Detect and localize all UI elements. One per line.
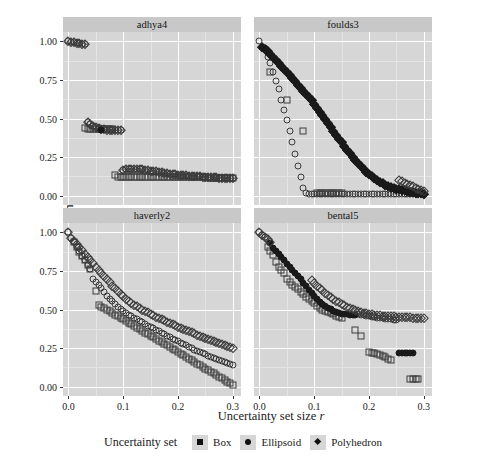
gridline-minor-h bbox=[63, 61, 241, 62]
legend-label-box: Box bbox=[213, 436, 231, 448]
legend: Uncertainty set Box Ellipsoid Polyhedron bbox=[0, 430, 486, 454]
x-tick-label: 0.3 bbox=[407, 401, 441, 412]
gridline-major-h bbox=[254, 387, 432, 388]
gridline-minor-h bbox=[254, 367, 432, 368]
gridline-major-v bbox=[259, 32, 260, 205]
gridline-major-h bbox=[63, 387, 241, 388]
x-tick-mark bbox=[123, 396, 124, 399]
x-tick-label: 0.2 bbox=[161, 401, 195, 412]
gridline-major-h bbox=[254, 157, 432, 158]
legend-item-ellipsoid[interactable]: Ellipsoid bbox=[240, 435, 301, 450]
x-tick-mark bbox=[233, 396, 234, 399]
y-tick-mark bbox=[60, 119, 63, 120]
data-point-circle bbox=[229, 362, 236, 369]
y-tick-mark bbox=[60, 41, 63, 42]
gridline-major-v bbox=[259, 223, 260, 396]
data-point-circle bbox=[270, 69, 277, 76]
data-point-square bbox=[387, 356, 394, 363]
data-point-circle bbox=[292, 151, 299, 158]
facet-bental5: bental5 bbox=[254, 208, 432, 396]
gridline-major-h bbox=[63, 80, 241, 81]
legend-label-ellipsoid: Ellipsoid bbox=[261, 436, 301, 448]
y-tick-label: 0.00 bbox=[23, 381, 57, 392]
gridline-major-h bbox=[63, 41, 241, 42]
gridline-minor-h bbox=[254, 176, 432, 177]
legend-item-box[interactable]: Box bbox=[192, 435, 231, 450]
facet-haverly2: haverly2 bbox=[63, 208, 241, 396]
data-point-circle bbox=[297, 174, 304, 181]
x-tick-label: 0.1 bbox=[106, 401, 140, 412]
y-tick-mark bbox=[60, 232, 63, 233]
gridline-minor-h bbox=[63, 252, 241, 253]
gridline-major-h bbox=[254, 232, 432, 233]
data-point-circle bbox=[272, 77, 279, 84]
facet-foulds3: foulds3 bbox=[254, 17, 432, 205]
x-tick-label: 0.2 bbox=[352, 401, 386, 412]
x-tick-mark bbox=[259, 396, 260, 399]
gridline-major-v bbox=[424, 223, 425, 396]
gridline-major-h bbox=[63, 157, 241, 158]
facet-strip-bental5: bental5 bbox=[254, 208, 432, 223]
circle-marker-icon bbox=[240, 435, 256, 450]
facet-strip-haverly2: haverly2 bbox=[63, 208, 241, 223]
y-tick-label: 0.00 bbox=[23, 190, 57, 201]
gridline-major-v bbox=[233, 223, 234, 396]
facet-strip-foulds3: foulds3 bbox=[254, 17, 432, 32]
chart-root: Objective value / nominal objective valu… bbox=[0, 0, 486, 467]
diamond-marker-icon bbox=[310, 435, 326, 450]
x-tick-mark bbox=[314, 396, 315, 399]
gridline-major-h bbox=[254, 80, 432, 81]
y-tick-mark bbox=[60, 348, 63, 349]
gridline-major-v bbox=[178, 223, 179, 396]
data-point-circle bbox=[256, 38, 263, 45]
gridline-major-h bbox=[63, 196, 241, 197]
facet-strip-adhya4: adhya4 bbox=[63, 17, 241, 32]
facet-panel-bental5 bbox=[254, 223, 432, 396]
data-point-circle bbox=[283, 117, 290, 124]
data-point-square bbox=[357, 332, 364, 339]
y-tick-label: 1.00 bbox=[23, 227, 57, 238]
gridline-major-v bbox=[68, 223, 69, 396]
gridline-major-h bbox=[63, 232, 241, 233]
legend-item-polyhedron[interactable]: Polyhedron bbox=[310, 435, 382, 450]
data-point-circle bbox=[286, 127, 293, 134]
legend-title: Uncertainty set bbox=[104, 435, 177, 450]
x-tick-label: 0.0 bbox=[51, 401, 85, 412]
facet-panel-haverly2 bbox=[63, 223, 241, 396]
x-tick-mark bbox=[68, 396, 69, 399]
data-point-square bbox=[229, 381, 236, 388]
y-tick-mark bbox=[60, 271, 63, 272]
gridline-minor-h bbox=[63, 138, 241, 139]
y-tick-label: 0.75 bbox=[23, 74, 57, 85]
y-tick-label: 0.25 bbox=[23, 343, 57, 354]
y-tick-label: 0.25 bbox=[23, 152, 57, 163]
data-point-circle bbox=[281, 107, 288, 114]
x-tick-mark bbox=[178, 396, 179, 399]
facet-panel-adhya4 bbox=[63, 32, 241, 205]
data-point-circle bbox=[98, 127, 105, 134]
gridline-major-h bbox=[254, 41, 432, 42]
facet-panel-foulds3 bbox=[254, 32, 432, 205]
y-tick-mark bbox=[60, 387, 63, 388]
square-marker-icon bbox=[192, 435, 208, 450]
gridline-major-v bbox=[424, 32, 425, 205]
gridline-major-h bbox=[63, 348, 241, 349]
gridline-minor-h bbox=[254, 329, 432, 330]
data-point-circle bbox=[289, 139, 296, 146]
data-point-circle bbox=[278, 96, 285, 103]
gridline-minor-h bbox=[63, 99, 241, 100]
gridline-major-h bbox=[254, 119, 432, 120]
data-point-circle bbox=[294, 162, 301, 169]
y-tick-mark bbox=[60, 196, 63, 197]
facet-adhya4: adhya4 bbox=[63, 17, 241, 205]
x-tick-label: 0.1 bbox=[297, 401, 331, 412]
x-tick-label: 0.0 bbox=[242, 401, 276, 412]
legend-label-polyhedron: Polyhedron bbox=[331, 436, 382, 448]
y-tick-label: 0.75 bbox=[23, 265, 57, 276]
y-tick-mark bbox=[60, 80, 63, 81]
x-tick-mark bbox=[424, 396, 425, 399]
data-point-square bbox=[300, 127, 307, 134]
gridline-minor-h bbox=[63, 290, 241, 291]
data-point-square bbox=[415, 376, 422, 383]
gridline-minor-h bbox=[254, 290, 432, 291]
